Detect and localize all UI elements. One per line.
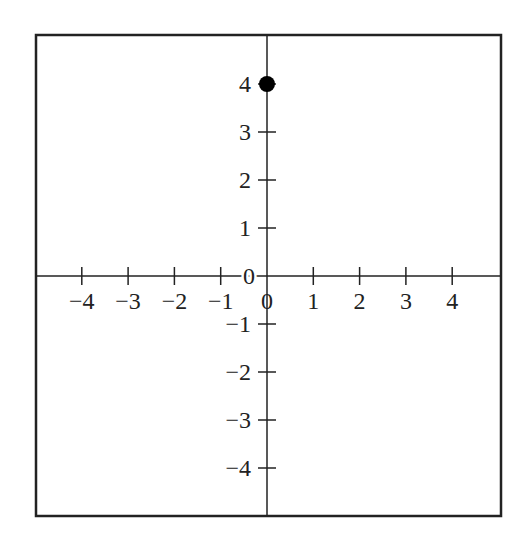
x-tick-label: 4	[446, 288, 458, 314]
x-tick-label: −3	[115, 288, 141, 314]
data-points	[259, 76, 275, 92]
coordinate-plane-figure: −4−3−2−101234 −4−3−2−101234	[0, 0, 525, 545]
axes	[36, 35, 501, 516]
y-tick-label: 2	[239, 167, 251, 193]
x-tick-label: −2	[162, 288, 188, 314]
x-tick-label: −4	[69, 288, 95, 314]
y-tick-label: −1	[225, 311, 251, 337]
y-tick-label: −3	[225, 407, 251, 433]
y-tick-label: −2	[225, 359, 251, 385]
y-tick-label: −4	[225, 455, 251, 481]
x-tick-label: 3	[400, 288, 412, 314]
data-point-marker	[259, 76, 275, 92]
x-axis-ticks: −4−3−2−101234	[69, 267, 458, 314]
y-tick-label: 3	[239, 119, 251, 145]
y-tick-label: 0	[243, 263, 255, 289]
x-tick-label: 2	[354, 288, 366, 314]
y-tick-label: 1	[239, 215, 251, 241]
x-tick-label: 0	[261, 288, 273, 314]
x-tick-label: 1	[307, 288, 319, 314]
y-tick-label: 4	[239, 71, 251, 97]
